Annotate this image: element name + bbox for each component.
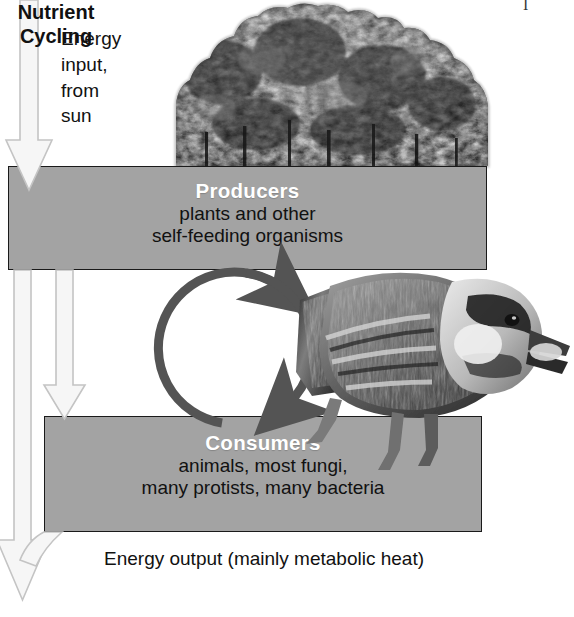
energy-input-arrow xyxy=(6,0,52,190)
figure-canvas: Producers plants and other self-feeding … xyxy=(0,0,574,617)
energy-flow-arrows xyxy=(0,0,574,617)
producers-to-consumers-arrow xyxy=(44,270,85,419)
